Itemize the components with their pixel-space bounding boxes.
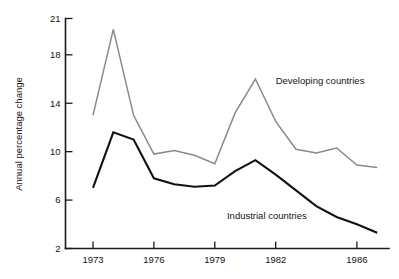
x-tick-label: 1982 xyxy=(265,254,286,265)
x-axis: 19731976197919821986 xyxy=(66,242,390,265)
y-tick-label: 6 xyxy=(55,194,60,205)
x-tick-label: 1979 xyxy=(204,254,225,265)
y-axis: 2610141821 xyxy=(50,13,73,254)
x-tick-label: 1976 xyxy=(143,254,164,265)
series-label-developing: Developing countries xyxy=(276,75,365,86)
line-chart: 2610141821 19731976197919821986 Developi… xyxy=(0,0,399,279)
chart-container: 2610141821 19731976197919821986 Developi… xyxy=(0,0,399,279)
series-line-developing xyxy=(93,29,377,167)
y-tick-label: 2 xyxy=(55,243,60,254)
y-tick-label: 10 xyxy=(50,146,61,157)
series-label-industrial: Industrial countries xyxy=(227,210,307,221)
y-tick-label: 18 xyxy=(50,49,61,60)
x-tick-label: 1986 xyxy=(346,254,367,265)
x-tick-label: 1973 xyxy=(82,254,103,265)
y-tick-label: 21 xyxy=(50,13,61,24)
y-axis-title: Annual percentage change xyxy=(13,77,24,191)
y-tick-label: 14 xyxy=(50,98,61,109)
series-layer xyxy=(93,29,377,232)
